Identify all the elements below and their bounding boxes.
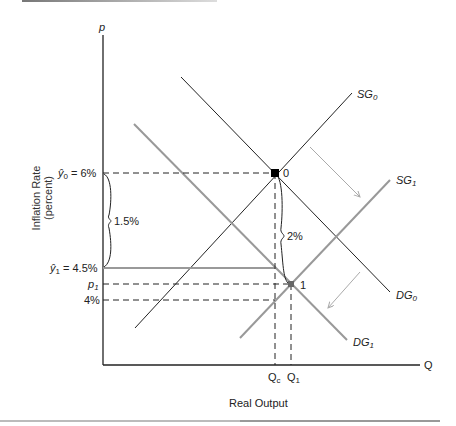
y-axis-label: Inflation Rate (percent) — [30, 138, 54, 258]
p1-label: p1 — [88, 279, 99, 292]
dg1-label: DG1 — [353, 337, 374, 350]
dg1-curve — [134, 124, 347, 340]
x-axis-symbol: Q — [424, 360, 433, 371]
equilibrium-point-1 — [288, 281, 294, 287]
y-axis-symbol: p — [99, 22, 105, 33]
four-pct-label: 4% — [84, 295, 100, 306]
point-0-label: 0 — [283, 168, 289, 179]
brace-2pct — [276, 174, 288, 283]
q1-label: Q1 — [287, 372, 300, 385]
point-1-label: 1 — [300, 280, 306, 291]
y0-label: ŷ0 = 6% — [58, 168, 96, 181]
y1-label: ŷ1 = 4.5% — [50, 263, 98, 276]
top-rule — [22, 0, 217, 2]
qc-label: Qc — [268, 372, 281, 385]
brace-1-5pct-label: 1.5% — [114, 216, 139, 227]
diagram-canvas — [0, 0, 456, 426]
shift-arrow-dg — [328, 272, 360, 308]
bottom-rule-right — [240, 420, 440, 422]
bottom-rule-left — [0, 420, 240, 422]
sg0-label: SG0 — [357, 89, 377, 102]
dg0-curve — [181, 77, 390, 292]
dg0-label: DG0 — [396, 290, 417, 303]
sg0-curve — [135, 93, 352, 328]
brace-2pct-label: 2% — [287, 231, 303, 242]
brace-1-5pct — [104, 174, 111, 267]
sg1-curve — [240, 180, 390, 338]
x-axis-label: Real Output — [229, 398, 288, 409]
equilibrium-point-0 — [271, 169, 279, 177]
sg1-label: SG1 — [396, 175, 416, 188]
shift-arrow-sg — [310, 147, 360, 197]
